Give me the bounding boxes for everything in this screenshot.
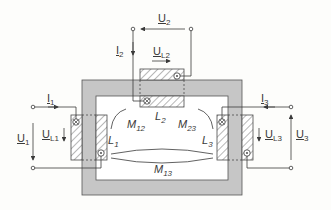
inductance-l2-label: L2: [155, 111, 166, 125]
voltage-u1-label: U1: [17, 133, 29, 147]
current-i2-label: I2: [116, 45, 124, 59]
voltage-ul1-label: UL1: [42, 129, 59, 143]
mutual-m13-label: M13: [154, 164, 172, 178]
voltage-u3-label: U3: [296, 129, 308, 143]
current-i3-label: I3: [261, 93, 269, 107]
three-coil-transformer-diagram: I1 U1 UL1 L1 U2 I2 UL2 L2 I3 U3 UL3 L3 M…: [0, 0, 331, 210]
inductance-l3-label: L3: [202, 135, 213, 149]
mutual-m12-label: M12: [127, 119, 145, 133]
voltage-ul2-label: UL2: [153, 46, 170, 60]
current-i1-label: I1: [47, 93, 55, 107]
mutual-m23-label: M23: [178, 119, 196, 133]
inductance-l1-label: L1: [108, 135, 119, 149]
voltage-ul3-label: UL3: [265, 129, 282, 143]
voltage-u2-label: U2: [158, 13, 170, 27]
